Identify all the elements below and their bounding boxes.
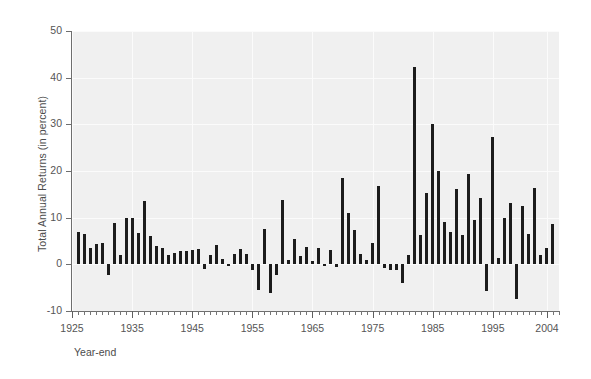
x-axis-tick-label: 1935 [120,322,143,334]
x-axis-tick-minor [487,311,488,315]
bar [515,264,518,299]
x-axis-tick-minor [108,311,109,315]
x-axis-tick-minor [541,311,542,315]
x-axis-tick-minor [222,311,223,315]
bar [293,239,296,265]
x-axis-tick-minor [264,311,265,315]
y-axis-tick [66,78,71,79]
x-axis-tick-major [72,311,73,318]
x-axis-tick-major [252,311,253,318]
x-axis-tick-minor [102,311,103,315]
bar [545,248,548,264]
x-axis-tick-minor [84,311,85,315]
x-axis-tick-minor [276,311,277,315]
bar [203,264,206,268]
gridline-vertical [373,31,374,311]
bar [443,222,446,264]
x-axis-tick-minor [397,311,398,315]
bar [77,232,80,265]
bar [473,220,476,264]
bar [353,230,356,264]
x-axis-tick-minor [114,311,115,315]
y-axis-tick-label: 10 [20,211,62,223]
y-axis-tick-labels: -1001020304050 [0,0,62,379]
bar [341,178,344,264]
x-axis-tick-major [547,311,548,318]
x-axis-tick-minor [306,311,307,315]
gridline-vertical [312,31,313,311]
bar [365,260,368,265]
bar [227,264,230,266]
bar [533,188,536,264]
y-axis-tick-label: -10 [20,304,62,316]
gridline-vertical [192,31,193,311]
gridline-horizontal [72,171,559,172]
bar [503,218,506,265]
bar [551,224,554,264]
bar [179,251,182,264]
bar [401,264,404,283]
x-axis-tick-major [433,311,434,318]
bar [107,264,110,275]
bar [311,261,314,264]
gridline-vertical [547,31,548,311]
bar [185,251,188,264]
x-axis-tick-minor [270,311,271,315]
x-axis-tick-minor [391,311,392,315]
bar [425,193,428,264]
bar [539,255,542,265]
bar [413,67,416,264]
x-axis-tick-major [493,311,494,318]
x-axis-tick-minor [361,311,362,315]
x-axis-tick-minor [180,311,181,315]
x-axis-tick-major [373,311,374,318]
x-axis-tick-minor [481,311,482,315]
x-axis-tick-minor [234,311,235,315]
bar [245,254,248,264]
x-axis-tick-minor [120,311,121,315]
bar [119,255,122,264]
bar [269,264,272,292]
x-axis-tick-minor [523,311,524,315]
x-axis-tick-minor [535,311,536,315]
x-axis-tick-minor [403,311,404,315]
x-axis-tick-minor [457,311,458,315]
bar [389,264,392,270]
bar [83,234,86,264]
x-axis-tick-minor [198,311,199,315]
x-axis-tick-minor [288,311,289,315]
x-axis-tick-minor [138,311,139,315]
x-axis-tick-label: 1945 [181,322,204,334]
x-axis-tick-minor [379,311,380,315]
x-axis-tick-minor [126,311,127,315]
bar [455,189,458,265]
bar [167,255,170,264]
bar [461,235,464,264]
y-axis-tick [66,31,71,32]
bar [299,256,302,264]
bar [527,234,530,264]
bar [143,201,146,264]
bar [101,243,104,264]
bar [521,206,524,265]
bar [215,245,218,264]
bar [161,248,164,264]
bar [263,229,266,264]
gridline-horizontal [72,124,559,125]
x-axis-tick-label: 1965 [301,322,324,334]
bar [497,258,500,265]
x-axis-tick-label: 1925 [60,322,83,334]
bar [191,250,194,264]
bar [137,233,140,264]
bar [467,174,470,264]
x-axis-tick-minor [78,311,79,315]
bar [287,260,290,264]
gridline-vertical [132,31,133,311]
x-axis-tick-minor [343,311,344,315]
bar [431,124,434,264]
bar [395,264,398,270]
chart-figure: Total Annual Returns (in percent) Year-e… [0,0,591,379]
x-axis-tick-minor [300,311,301,315]
x-axis-tick-minor [529,311,530,315]
gridline-vertical [72,31,73,311]
